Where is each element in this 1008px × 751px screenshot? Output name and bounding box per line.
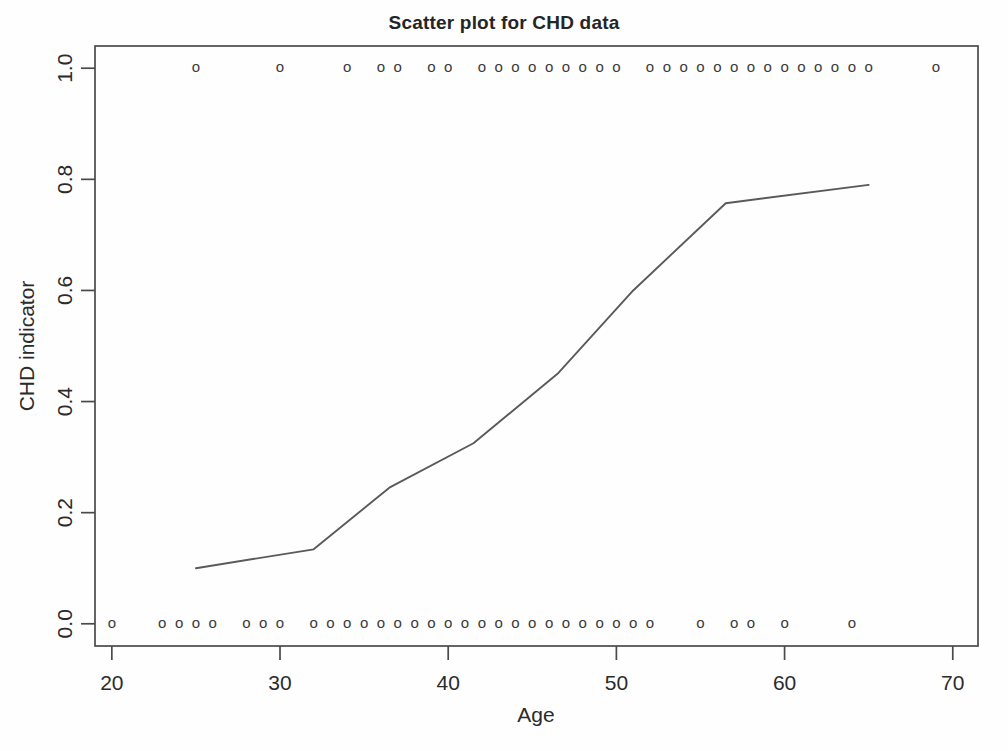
data-point: o xyxy=(528,58,536,75)
data-point: o xyxy=(696,614,704,631)
data-point: o xyxy=(612,614,620,631)
data-point: o xyxy=(377,58,385,75)
data-point: o xyxy=(848,58,856,75)
data-point: o xyxy=(780,614,788,631)
data-point: o xyxy=(108,614,116,631)
data-point: o xyxy=(679,58,687,75)
x-axis-ticks xyxy=(112,646,953,660)
chart-page: Scatter plot for CHD data 203040506070 0… xyxy=(0,0,1008,751)
y-tick-label-0.2: 0.2 xyxy=(54,498,77,527)
data-point: o xyxy=(242,614,250,631)
data-point: o xyxy=(562,614,570,631)
data-point: o xyxy=(797,58,805,75)
data-point: o xyxy=(209,614,217,631)
data-point: o xyxy=(579,614,587,631)
data-point: o xyxy=(747,614,755,631)
y-axis-title: CHD indicator xyxy=(15,281,38,412)
x-tick-label-20: 20 xyxy=(100,671,123,694)
data-point: o xyxy=(444,58,452,75)
data-points-chd-positive: ooooooooooooooooooooooooooooooo xyxy=(192,58,940,75)
y-tick-label-0.0: 0.0 xyxy=(54,609,77,638)
data-point: o xyxy=(595,58,603,75)
data-point: o xyxy=(848,614,856,631)
y-tick-label-1.0: 1.0 xyxy=(54,54,77,83)
data-point: o xyxy=(932,58,940,75)
y-axis-tick-labels: 0.00.20.40.60.81.0 xyxy=(54,54,77,639)
data-point: o xyxy=(511,58,519,75)
scatter-plot-canvas: 203040506070 0.00.20.40.60.81.0 oooooooo… xyxy=(0,0,1008,751)
data-point: o xyxy=(326,614,334,631)
data-point: o xyxy=(764,58,772,75)
data-point: o xyxy=(343,58,351,75)
data-point: o xyxy=(612,58,620,75)
data-point: o xyxy=(276,58,284,75)
data-point: o xyxy=(410,614,418,631)
data-point: o xyxy=(360,614,368,631)
data-point: o xyxy=(427,58,435,75)
x-tick-label-60: 60 xyxy=(773,671,796,694)
data-point: o xyxy=(309,614,317,631)
data-point: o xyxy=(646,614,654,631)
data-point: o xyxy=(444,614,452,631)
y-tick-label-0.8: 0.8 xyxy=(54,165,77,194)
y-axis-ticks xyxy=(81,68,95,624)
data-point: o xyxy=(494,614,502,631)
data-point: o xyxy=(579,58,587,75)
data-point: o xyxy=(713,58,721,75)
fit-curve-line xyxy=(196,185,869,568)
x-axis-tick-labels: 203040506070 xyxy=(100,671,964,694)
data-point: o xyxy=(545,614,553,631)
data-point: o xyxy=(562,58,570,75)
data-point: o xyxy=(595,614,603,631)
data-point: o xyxy=(780,58,788,75)
data-points-chd-negative: oooooooooooooooooooooooooooooooooo xyxy=(108,614,856,631)
data-point: o xyxy=(663,58,671,75)
data-point: o xyxy=(175,614,183,631)
data-point: o xyxy=(276,614,284,631)
plot-frame xyxy=(95,46,978,646)
x-tick-label-50: 50 xyxy=(605,671,628,694)
data-point: o xyxy=(192,614,200,631)
y-tick-label-0.4: 0.4 xyxy=(54,387,77,417)
x-tick-label-40: 40 xyxy=(437,671,460,694)
x-tick-label-30: 30 xyxy=(268,671,291,694)
data-point: o xyxy=(461,614,469,631)
data-point: o xyxy=(646,58,654,75)
data-point: o xyxy=(478,58,486,75)
data-point: o xyxy=(747,58,755,75)
data-point: o xyxy=(511,614,519,631)
data-point: o xyxy=(478,614,486,631)
data-point: o xyxy=(427,614,435,631)
data-point: o xyxy=(377,614,385,631)
data-point: o xyxy=(259,614,267,631)
data-point: o xyxy=(814,58,822,75)
data-point: o xyxy=(696,58,704,75)
data-point: o xyxy=(343,614,351,631)
data-point: o xyxy=(730,58,738,75)
data-point: o xyxy=(831,58,839,75)
data-point: o xyxy=(394,614,402,631)
data-point: o xyxy=(192,58,200,75)
data-point: o xyxy=(545,58,553,75)
data-point: o xyxy=(629,614,637,631)
data-point: o xyxy=(730,614,738,631)
x-tick-label-70: 70 xyxy=(941,671,964,694)
x-axis-title: Age xyxy=(517,703,554,726)
data-point: o xyxy=(394,58,402,75)
data-point: o xyxy=(528,614,536,631)
data-point: o xyxy=(494,58,502,75)
data-point: o xyxy=(865,58,873,75)
data-point: o xyxy=(158,614,166,631)
y-tick-label-0.6: 0.6 xyxy=(54,276,77,305)
